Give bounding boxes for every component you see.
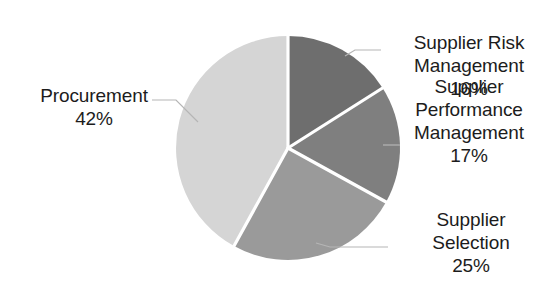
pie-label-supplier-selection-line1: Supplier <box>390 208 552 231</box>
pie-label-procurement-percent: 42% <box>24 107 164 130</box>
pie-label-procurement: Procurement 42% <box>24 84 164 130</box>
pie-label-supplier-performance-management: Supplier Performance Management 17% <box>381 75 557 167</box>
pie-label-supplier-selection: Supplier Selection 25% <box>390 208 552 277</box>
pie-label-supplier-performance-line3: Management <box>381 121 557 144</box>
pie-label-supplier-performance-line1: Supplier <box>381 75 557 98</box>
pie-label-supplier-risk-line2: Management <box>383 54 555 77</box>
pie-label-supplier-performance-percent: 17% <box>381 144 557 167</box>
pie-label-supplier-selection-percent: 25% <box>390 254 552 277</box>
pie-label-supplier-risk-line1: Supplier Risk <box>383 31 555 54</box>
pie-label-procurement-name: Procurement <box>24 84 164 107</box>
pie-chart: Procurement 42% Supplier Risk Management… <box>0 0 557 297</box>
pie-label-supplier-selection-line2: Selection <box>390 231 552 254</box>
pie-label-supplier-performance-line2: Performance <box>381 98 557 121</box>
